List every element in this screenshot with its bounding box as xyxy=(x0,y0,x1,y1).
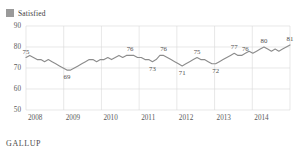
x-axis-tick-label: 2011 xyxy=(141,114,156,122)
y-axis-tick-label: 90 xyxy=(14,22,22,30)
data-point-label: 77 xyxy=(231,43,238,50)
plot-area: 9080706050 2008200920102011201220132014 … xyxy=(0,22,294,130)
data-point-label: 71 xyxy=(179,69,186,76)
y-axis-tick-label: 60 xyxy=(14,85,22,93)
x-axis-tick-label: 2012 xyxy=(179,114,194,122)
y-axis-tick-label: 80 xyxy=(14,43,22,51)
x-axis-tick-label: 2008 xyxy=(28,114,43,122)
plot-svg: 9080706050 2008200920102011201220132014 … xyxy=(0,22,294,130)
gallup-line-chart: Satisfied 9080706050 2008200920102011201… xyxy=(0,0,294,161)
chart-legend: Satisfied xyxy=(6,7,46,19)
x-axis-tick-label: 2013 xyxy=(217,114,232,122)
data-point-label: 76 xyxy=(160,45,167,52)
legend-swatch-satisfied xyxy=(6,9,14,17)
data-point-label: 76 xyxy=(242,45,249,52)
gridlines xyxy=(26,26,290,110)
data-point-label: 72 xyxy=(212,67,219,74)
y-axis-ticks: 9080706050 xyxy=(14,22,22,114)
y-axis-tick-label: 50 xyxy=(14,106,22,114)
data-point-label: 69 xyxy=(64,73,71,80)
data-point-label: 73 xyxy=(149,65,156,72)
gallup-brand-footer: GALLUP xyxy=(6,139,41,148)
x-axis-tick-label: 2009 xyxy=(66,114,81,122)
data-point-label: 75 xyxy=(194,48,201,55)
data-point-label: 80 xyxy=(261,37,268,44)
y-axis-tick-label: 70 xyxy=(14,64,22,72)
data-point-label: 76 xyxy=(127,45,134,52)
x-axis-ticks: 2008200920102011201220132014 xyxy=(28,114,269,122)
data-point-label: 81 xyxy=(287,35,294,42)
x-axis-tick-label: 2010 xyxy=(103,114,118,122)
data-point-label: 75 xyxy=(23,48,30,55)
x-axis-tick-label: 2014 xyxy=(254,114,269,122)
legend-label-satisfied: Satisfied xyxy=(18,9,46,18)
data-line-satisfied xyxy=(26,45,290,70)
